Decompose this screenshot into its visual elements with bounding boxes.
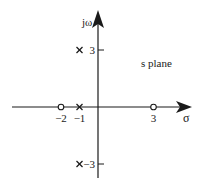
imag-tick-label: −3 [83,158,95,170]
real-tick-label: −1 [74,112,86,124]
real-tick-label: −2 [55,112,67,124]
imag-tick-label: 3 [90,44,96,56]
s-plane-diagram: jω σ s plane 3−3−2−13 [0,0,204,184]
imag-axis-label: jω [81,16,92,28]
pole-marker [77,47,83,53]
real-tick-label: 3 [151,112,157,124]
real-axis-label: σ [183,111,190,125]
zero-marker [151,104,157,110]
plane-title: s plane [141,57,172,69]
pole-marker [77,161,83,167]
zero-marker [58,104,64,110]
